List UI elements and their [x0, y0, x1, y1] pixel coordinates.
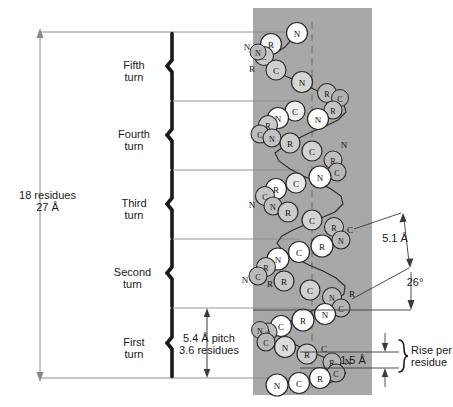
atom-label-c: C [333, 370, 338, 379]
atom-label-c: C [321, 344, 327, 354]
atom-label-n: N [338, 237, 344, 246]
pitch-residues-label: 3.6 residues [170, 344, 248, 357]
atom-label-n: N [322, 310, 329, 320]
turn-label-fifth-line1: Fifth [103, 59, 165, 72]
turn-label-first-line1: First [103, 336, 165, 349]
atom-label-r: R [249, 64, 255, 74]
turn-label-second-line1: Second [100, 266, 165, 279]
turn-label-third-line2: turn [103, 209, 165, 222]
atom-label-n: N [282, 343, 289, 353]
atom-label-n: N [294, 29, 301, 39]
turn-label-third-line1: Third [103, 197, 165, 210]
atom-label-c: C [307, 286, 313, 296]
atom-label-c: C [296, 379, 302, 389]
atom-label-r: R [287, 139, 293, 149]
rise-brace-icon [399, 340, 408, 372]
overall-length-label: 27 Å [5, 201, 90, 214]
atom-label-r: R [319, 242, 325, 252]
turn-label-fourth-line1: Fourth [103, 128, 165, 141]
atom-label-c: C [296, 248, 302, 258]
atom-label-r: R [267, 279, 273, 289]
atom-label-c: C [263, 339, 268, 348]
atom-label-c: C [309, 147, 315, 157]
atom-label-c: C [293, 179, 299, 189]
rise-per-residue-label-line2: residue [411, 356, 453, 369]
turn-label-fourth-line2: turn [103, 140, 165, 153]
turn-label-fifth-line2: turn [103, 71, 165, 84]
atom-label-c: C [257, 131, 262, 140]
atom-label-r: R [285, 208, 291, 218]
pitch-label: 5.4 Å pitch [170, 332, 248, 345]
atom-label-n: N [341, 140, 348, 150]
atom-label-n: N [317, 173, 324, 183]
atom-label-c: C [255, 273, 260, 282]
atom-label-c: C [309, 216, 315, 226]
overall-residues-label: 18 residues [5, 189, 90, 202]
rise-value-label: 1.5 Å [330, 354, 376, 367]
atom-label-r: R [300, 316, 306, 326]
atom-label-r: R [324, 90, 330, 99]
atom-label-c: C [292, 107, 298, 117]
atom-label-r: R [281, 277, 287, 287]
atom-label-n: N [255, 49, 261, 58]
atom-label-c: C [334, 169, 339, 178]
atom-label-c: C [273, 66, 279, 76]
atom-label-n: N [270, 203, 276, 212]
angle-label: 26° [398, 276, 432, 289]
atom-label-n: N [299, 78, 306, 88]
atom-label-n: N [242, 275, 249, 285]
atom-label-n: N [249, 200, 256, 210]
atom-label-r: R [330, 107, 336, 116]
alpha-helix-figure: N R C N N R C N R C R N C [0, 0, 453, 407]
atom-label-c: C [278, 322, 284, 332]
turn-label-second-line2: turn [100, 278, 165, 291]
atom-label-n: N [244, 42, 251, 52]
atom-label-r: R [304, 350, 310, 360]
radius-label: 5.1 Å [375, 232, 415, 245]
turn-bracket-bars [167, 34, 172, 377]
atom-label-c: C [338, 305, 343, 314]
atom-label-n: N [269, 135, 275, 144]
atom-label-n: N [274, 381, 281, 391]
turn-label-first-line2: turn [103, 348, 165, 361]
rise-per-residue-label-line1: Rise per [411, 344, 453, 357]
atom-label-n: N [275, 255, 282, 265]
atom-label-r: R [317, 374, 323, 384]
atom-label-n: N [315, 115, 322, 125]
